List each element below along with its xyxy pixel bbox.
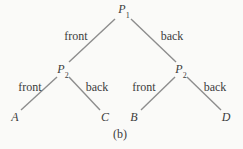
node-p2-right: P2	[175, 63, 186, 75]
node-p2-left: P2	[57, 63, 68, 75]
leaf-d: D	[222, 111, 231, 123]
leaf-b: B	[130, 111, 137, 123]
edge-label-root-front: front	[64, 30, 87, 42]
node-p2-right-subscript: 2	[183, 71, 187, 80]
edge-label-right-back: back	[204, 81, 227, 93]
leaf-a: A	[11, 111, 18, 123]
node-p1-subscript: 1	[126, 11, 130, 20]
tree-diagram: P1 front back P2 P2 front back front bac…	[0, 0, 243, 149]
edge-label-root-back: back	[161, 30, 184, 42]
edge-label-left-front: front	[18, 81, 41, 93]
figure-caption: (b)	[113, 128, 127, 140]
leaf-c: C	[101, 111, 109, 123]
node-p2-left-subscript: 2	[65, 71, 69, 80]
node-p1: P1	[118, 3, 129, 15]
edge-label-right-front: front	[132, 81, 155, 93]
edge-label-left-back: back	[86, 81, 109, 93]
